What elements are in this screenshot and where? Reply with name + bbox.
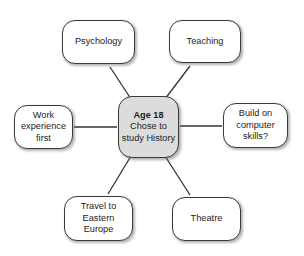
node-work-text: Work experience first	[18, 110, 69, 145]
node-travel-line-1: Travel to	[81, 201, 117, 213]
edge-center-psychology	[110, 67, 131, 99]
node-center[interactable]: Age 18 Chose to study History	[118, 96, 179, 158]
node-center-line-3: study History	[122, 133, 175, 145]
node-teaching[interactable]: Teaching	[169, 20, 241, 63]
node-teaching-line-1: Teaching	[187, 36, 224, 48]
node-theatre[interactable]: Theatre	[172, 197, 241, 241]
node-psychology[interactable]: Psychology	[62, 20, 135, 64]
node-build-line-1: Build on	[236, 108, 274, 120]
edge-center-theatre	[165, 156, 190, 195]
node-work-experience-first[interactable]: Work experience first	[14, 105, 73, 149]
node-work-line-1: Work	[21, 110, 66, 122]
edge-center-teaching	[165, 66, 190, 99]
node-build-line-2: computer	[236, 120, 274, 132]
node-work-line-2: experience	[21, 121, 66, 133]
node-build-text: Build on computer skills?	[233, 108, 277, 143]
node-theatre-text: Theatre	[188, 213, 226, 225]
node-build-on-computer-skills[interactable]: Build on computer skills?	[223, 103, 288, 148]
node-travel-text: Travel to Eastern Europe	[78, 201, 120, 236]
edge-center-travel	[108, 156, 131, 194]
node-teaching-text: Teaching	[184, 36, 227, 48]
node-center-text: Age 18 Chose to study History	[119, 110, 178, 145]
mind-map-diagram: Age 18 Chose to study History Psychology…	[0, 0, 304, 256]
node-psychology-line-1: Psychology	[75, 36, 122, 48]
node-build-line-3: skills?	[236, 131, 274, 143]
node-theatre-line-1: Theatre	[191, 213, 223, 225]
node-center-line-1: Age 18	[122, 110, 175, 122]
node-center-line-2: Chose to	[122, 121, 175, 133]
node-travel-line-3: Europe	[81, 224, 117, 236]
node-travel-to-eastern-europe[interactable]: Travel to Eastern Europe	[64, 196, 133, 241]
node-travel-line-2: Eastern	[81, 213, 117, 225]
node-work-line-3: first	[21, 133, 66, 145]
node-psychology-text: Psychology	[72, 36, 125, 48]
